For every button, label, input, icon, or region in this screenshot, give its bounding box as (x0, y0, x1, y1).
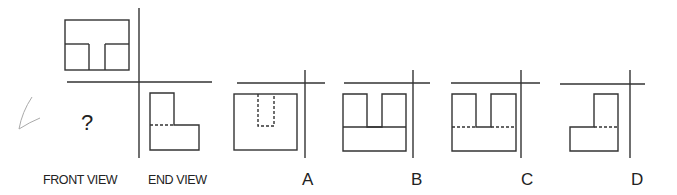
end-view-label: END VIEW (148, 173, 207, 187)
orthographic-drawing (0, 0, 677, 195)
option-c-label[interactable]: C (521, 170, 533, 190)
option-a-label[interactable]: A (302, 170, 313, 190)
option-c-drawing[interactable] (451, 70, 540, 158)
option-d-drawing[interactable] (560, 70, 645, 158)
end-view (150, 93, 199, 150)
option-a-drawing[interactable] (234, 70, 325, 158)
option-b-drawing[interactable] (343, 70, 430, 158)
front-view-unknown: ? (81, 110, 93, 136)
top-view (65, 20, 129, 70)
front-view-label: FRONT VIEW (43, 173, 117, 187)
option-b-label[interactable]: B (411, 170, 422, 190)
pencil-check-mark (19, 97, 40, 129)
option-d-label[interactable]: D (631, 170, 643, 190)
